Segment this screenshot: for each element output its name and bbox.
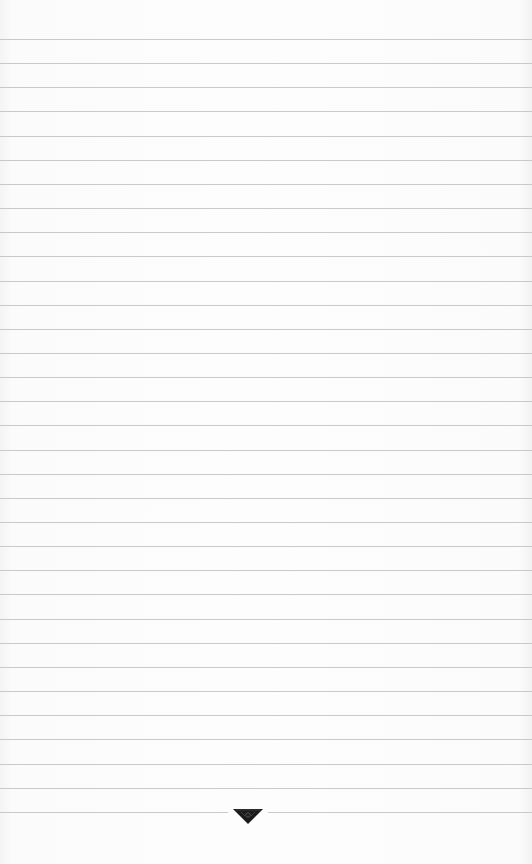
ruled-line [0,643,532,644]
ruled-line [0,594,532,595]
ruled-line [0,401,532,402]
ruled-line [0,691,532,692]
ruled-line [0,715,532,716]
ruled-line [0,522,532,523]
ruled-line [0,87,532,88]
lined-paper-sheet [0,0,532,864]
ruled-line [0,136,532,137]
ruled-line [0,232,532,233]
ruled-line [0,256,532,257]
ruled-line [0,570,532,571]
ruled-line [0,160,532,161]
ruled-line [0,739,532,740]
ruled-line [0,184,532,185]
ruled-line [0,377,532,378]
ruled-line [0,619,532,620]
ruled-line [0,353,532,354]
inverted-triangle-emblem-icon [233,808,263,824]
ruled-line [0,425,532,426]
ruled-line [0,667,532,668]
ruled-line [0,111,532,112]
ruled-line [0,39,532,40]
ruled-line [0,208,532,209]
ruled-line [0,498,532,499]
ruled-line [0,788,532,789]
ruled-line [0,305,532,306]
ruled-line [0,329,532,330]
ruled-line [0,764,532,765]
ruled-line [0,450,532,451]
ruled-line [0,281,532,282]
ruled-line [0,63,532,64]
ruled-line [0,474,532,475]
ruled-line [0,546,532,547]
